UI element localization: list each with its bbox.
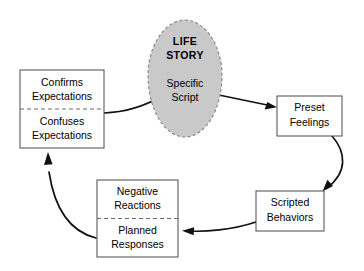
expectations-bottom-line-2: Expectations [32, 129, 92, 141]
connector-reactions-to-expectations [44, 152, 96, 238]
arrowhead-to-preset-feelings [265, 102, 277, 110]
connector-preset-to-scripted [323, 136, 343, 192]
reactions-bottom-line-1: Planned [118, 224, 157, 236]
expectations-top-line-1: Confirms [41, 76, 83, 88]
reactions-bottom-line-2: Responses [111, 238, 164, 250]
core-sub-line-2: Script [172, 91, 199, 103]
reactions-top-line-1: Negative [117, 185, 159, 197]
core-title-line-1: LIFE [173, 35, 197, 47]
scripted-behaviors-line-2: Behaviors [267, 211, 314, 223]
reactions-box[interactable]: Negative Reactions Planned Responses [97, 180, 178, 257]
connector-scripted-to-reactions [182, 222, 256, 235]
expectations-bottom-line-1: Confuses [40, 115, 84, 127]
scripted-behaviors-box[interactable]: Scripted Behaviors [256, 191, 324, 231]
preset-feelings-line-1: Preset [294, 101, 324, 113]
diagram-canvas: LIFE STORY Specific Script Confirms Expe… [0, 0, 364, 271]
life-story-cycle-diagram: LIFE STORY Specific Script Confirms Expe… [0, 0, 364, 271]
reactions-top-line-2: Reactions [114, 199, 161, 211]
core-title-line-2: STORY [166, 49, 204, 61]
core-shape: LIFE STORY Specific Script [148, 20, 222, 137]
expectations-top-line-2: Expectations [32, 90, 92, 102]
expectations-box[interactable]: Confirms Expectations Confuses Expectati… [20, 70, 104, 148]
core-sub-line-1: Specific [167, 77, 204, 89]
connector-core-to-preset-feelings [214, 94, 277, 110]
arrowhead-to-reactions [182, 227, 194, 235]
arrowhead-to-expectations [44, 152, 53, 165]
scripted-behaviors-line-1: Scripted [271, 196, 310, 208]
preset-feelings-box[interactable]: Preset Feelings [277, 96, 342, 136]
preset-feelings-line-2: Feelings [290, 116, 330, 128]
arrowhead-to-scripted-behaviors [323, 180, 334, 192]
